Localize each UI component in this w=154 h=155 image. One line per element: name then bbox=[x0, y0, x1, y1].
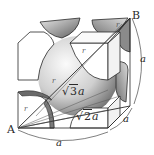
edge-bottom-arc bbox=[18, 130, 108, 141]
radius-label-4: r bbox=[116, 22, 119, 29]
edge-depth-label: a bbox=[123, 114, 129, 124]
body-diagonal-label: √3a bbox=[62, 86, 85, 97]
radius-label-3: r bbox=[82, 48, 85, 55]
bcc-unit-cell-diagram: A B √3a √2a a a a r r r r bbox=[0, 0, 154, 155]
radius-label-2: r bbox=[52, 78, 55, 85]
radius-label-1: r bbox=[24, 106, 27, 113]
face-diagonal-label: √2a bbox=[76, 111, 99, 122]
edge-right-label: a bbox=[140, 54, 146, 64]
edge-bottom-label: a bbox=[56, 138, 62, 148]
cube-drawing bbox=[0, 0, 154, 155]
point-b-label: B bbox=[132, 10, 140, 21]
point-a-label: A bbox=[7, 124, 15, 135]
